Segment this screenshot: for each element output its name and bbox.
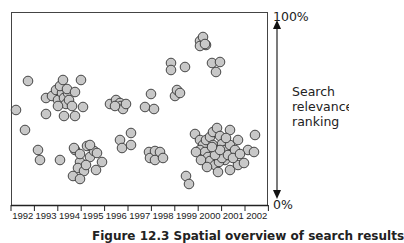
data-point (55, 155, 65, 165)
x-tick-label: 1992 (12, 210, 33, 221)
data-point (235, 149, 245, 159)
data-point (23, 76, 33, 86)
data-point (221, 133, 231, 143)
data-point (233, 135, 243, 145)
data-point (211, 67, 221, 77)
data-point (117, 143, 127, 153)
data-point (175, 88, 185, 98)
data-point (78, 102, 88, 112)
data-point (97, 157, 107, 167)
x-tick-label: 2001 (223, 210, 244, 221)
x-tick-label: 2000 (199, 210, 220, 221)
data-point (67, 101, 77, 111)
x-tick-label: 1993 (36, 210, 57, 221)
data-point (149, 104, 159, 114)
x-tick-label: 1997 (129, 210, 150, 221)
x-tick-label: 1995 (82, 210, 103, 221)
data-point (239, 158, 249, 168)
data-point (213, 167, 223, 177)
data-point (126, 128, 136, 138)
x-tick-label: 1999 (176, 210, 197, 221)
data-point (200, 39, 210, 49)
y-label-line-1: Search (292, 84, 335, 99)
data-point (53, 101, 63, 111)
data-point (92, 148, 102, 158)
data-point (85, 140, 95, 150)
data-point (184, 179, 194, 189)
data-point (11, 105, 21, 115)
data-point (91, 165, 101, 175)
figure-caption: Figure 12.3 Spatial overview of search r… (92, 229, 404, 243)
y-top-label: 100% (273, 9, 309, 24)
plot-frame (12, 13, 268, 206)
data-point (110, 101, 120, 111)
data-point (58, 75, 68, 85)
x-tick-label: 1996 (106, 210, 127, 221)
caption-label: Figure 12.3 (92, 229, 169, 243)
data-point (158, 153, 168, 163)
caption-text: Spatial overview of search results (173, 229, 404, 243)
x-axis-ticks: 1992199319941995199619971998199920002001… (11, 205, 268, 221)
data-point (180, 62, 190, 72)
data-point (146, 89, 156, 99)
data-point (70, 87, 80, 97)
data-point (121, 99, 131, 109)
data-point (126, 140, 136, 150)
data-point (75, 174, 85, 184)
data-point (215, 57, 225, 67)
y-bottom-label: 0% (273, 197, 293, 212)
data-point (33, 145, 43, 155)
data-point (59, 111, 69, 121)
data-point (81, 160, 91, 170)
y-label-line-3: ranking (292, 114, 339, 129)
x-tick-label: 1998 (153, 210, 174, 221)
data-point (202, 162, 212, 172)
data-point (70, 111, 80, 121)
x-tick-label: 1994 (59, 210, 80, 221)
data-point (75, 149, 85, 159)
y-label-line-2: relevance (292, 99, 349, 114)
data-point (76, 75, 86, 85)
data-point (41, 109, 51, 119)
data-point (20, 125, 30, 135)
data-point (207, 142, 217, 152)
data-point (35, 155, 45, 165)
data-point (249, 147, 259, 157)
data-point (250, 130, 260, 140)
data-point (140, 102, 150, 112)
x-tick-label: 2002 (246, 210, 267, 221)
data-point (166, 65, 176, 75)
